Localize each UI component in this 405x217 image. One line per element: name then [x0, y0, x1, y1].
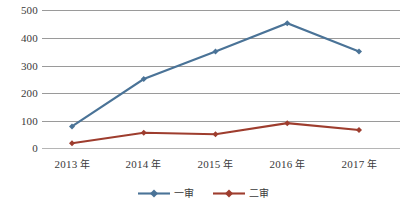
legend-swatch-line-icon: [212, 188, 246, 199]
x-axis-tick-year: 2015: [197, 158, 220, 170]
legend-swatch-line-icon: [137, 188, 171, 199]
data-point-marker: [284, 120, 290, 126]
data-point-marker: [213, 48, 219, 54]
data-point-marker: [356, 48, 362, 54]
data-point-marker: [69, 140, 75, 146]
x-axis-tick: 2014年: [125, 158, 160, 171]
x-axis-tick-year: 2014: [125, 158, 148, 170]
series-layer: [42, 10, 400, 148]
y-axis-tick: 200: [4, 88, 38, 98]
y-axis-tick: 100: [4, 116, 38, 126]
legend-label: 二审: [249, 188, 269, 199]
x-axis-tick-year: 2016: [269, 158, 292, 170]
data-point-marker: [356, 127, 362, 133]
y-axis: 500 400 300 200 100 0: [0, 0, 38, 158]
x-axis-tick-unit: 年: [151, 159, 161, 170]
series-markers-first-instance: [69, 20, 362, 129]
gridline-0: [42, 148, 400, 149]
x-axis-tick-unit: 年: [223, 159, 233, 170]
x-axis-tick-year: 2013: [54, 158, 77, 170]
x-axis-tick: 2017年: [341, 158, 376, 171]
x-axis: 2013年 2014年 2015年 2016年 2017年: [42, 158, 400, 178]
legend-item-first-instance[interactable]: 一审: [137, 188, 194, 199]
x-axis-tick: 2015年: [197, 158, 232, 171]
x-axis-tick-unit: 年: [367, 159, 377, 170]
data-point-marker: [284, 20, 290, 26]
y-axis-tick: 500: [4, 5, 38, 15]
chart-legend: 一审 二审: [0, 188, 405, 199]
x-axis-tick-year: 2017: [341, 158, 364, 170]
line-chart: 500 400 300 200 100 0 2013年 2014年 2015年: [0, 0, 405, 217]
x-axis-tick-unit: 年: [80, 159, 90, 170]
x-axis-tick: 2013年: [54, 158, 89, 171]
x-axis-tick-unit: 年: [295, 159, 305, 170]
data-point-marker: [213, 131, 219, 137]
y-axis-tick: 300: [4, 61, 38, 71]
y-axis-tick: 0: [4, 143, 38, 153]
legend-item-second-instance[interactable]: 二审: [212, 188, 269, 199]
data-point-marker: [141, 130, 147, 136]
x-axis-tick: 2016年: [269, 158, 304, 171]
legend-label: 一审: [174, 188, 194, 199]
plot-area: [42, 10, 400, 148]
y-axis-tick: 400: [4, 33, 38, 43]
series-markers-second-instance: [69, 120, 362, 146]
series-line-first-instance: [72, 23, 359, 126]
